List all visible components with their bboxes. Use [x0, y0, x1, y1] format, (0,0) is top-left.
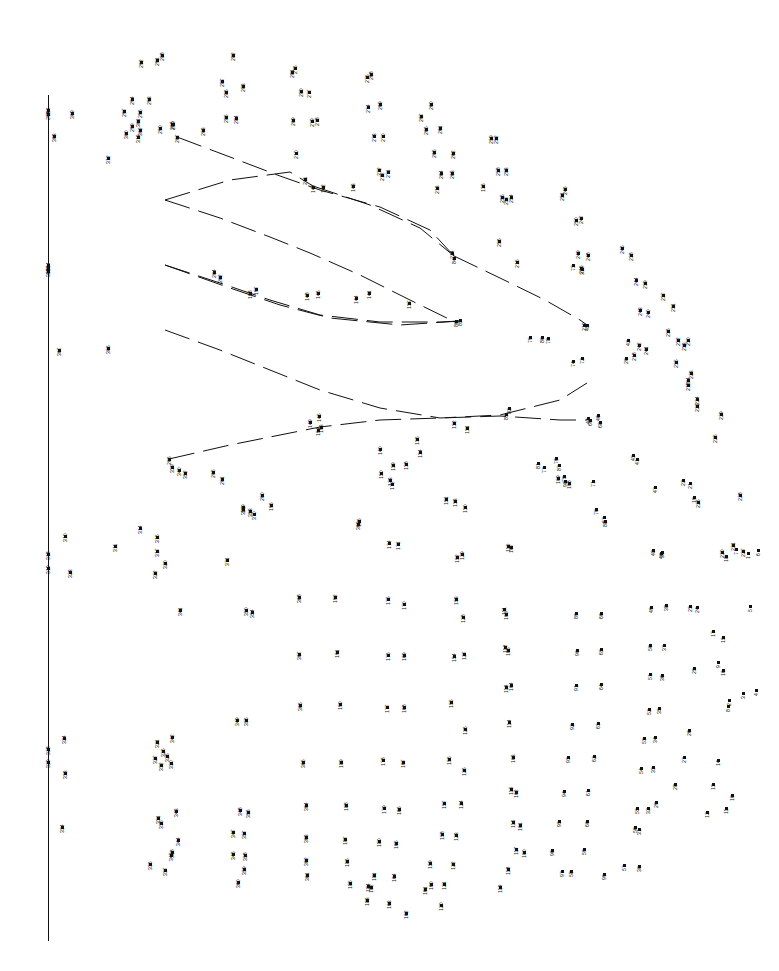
- dot-label-87: 87: [557, 465, 562, 471]
- dot-label-27: 27: [682, 757, 687, 763]
- dot-label-7: 7: [734, 552, 739, 555]
- dot-label-145: 145: [317, 413, 322, 422]
- dot-label-319: 319: [46, 565, 51, 574]
- dot-label-128: 128: [461, 614, 466, 623]
- dot-label-5: 5: [748, 609, 753, 612]
- dot-label-124: 124: [459, 800, 464, 809]
- dot-label-129: 129: [460, 551, 465, 560]
- dot-label-120: 120: [439, 902, 444, 911]
- dot-label-51: 51: [648, 674, 653, 680]
- dot-label-225: 225: [713, 434, 718, 443]
- dot-label-43: 43: [631, 455, 636, 461]
- dot-label-366: 366: [298, 702, 303, 711]
- dot-label-181: 181: [372, 872, 377, 881]
- dot-label-135: 135: [415, 436, 420, 445]
- dot-label-22: 22: [681, 480, 686, 486]
- dot-label-298: 298: [46, 111, 51, 120]
- dot-label-88: 88: [603, 521, 608, 527]
- curve-arc-1: [177, 137, 454, 256]
- dot-label-10: 10: [730, 795, 735, 801]
- dot-label-257: 257: [504, 196, 509, 205]
- dot-label-300: 300: [124, 130, 129, 139]
- dot-label-48: 48: [651, 550, 656, 556]
- dot-label-321: 321: [155, 739, 160, 748]
- dot-label-256: 256: [497, 238, 502, 247]
- dot-label-235: 235: [674, 359, 679, 368]
- dot-label-258: 258: [496, 167, 501, 176]
- dot-label-13: 13: [711, 784, 716, 790]
- dot-label-263: 263: [450, 170, 455, 179]
- dot-label-316: 316: [580, 266, 585, 275]
- dot-label-35: 35: [657, 708, 662, 714]
- dot-label-312: 312: [106, 155, 111, 164]
- dot-label-96: 96: [550, 850, 555, 856]
- dot-label-192: 192: [333, 594, 338, 603]
- dot-label-101: 101: [518, 822, 523, 831]
- dot-label-15: 15: [721, 637, 726, 643]
- dot-label-79: 79: [528, 337, 533, 343]
- dot-label-217: 217: [582, 322, 587, 331]
- dot-label-11: 11: [724, 809, 729, 814]
- dot-label-260: 260: [429, 101, 434, 110]
- dot-label-313: 313: [136, 134, 141, 143]
- dot-label-90: 90: [575, 650, 580, 656]
- dot-label-185: 185: [348, 880, 353, 889]
- dot-label-224: 224: [695, 396, 700, 405]
- dot-label-244: 244: [634, 277, 639, 286]
- dot-label-142: 142: [321, 184, 326, 193]
- dot-label-92: 92: [570, 724, 575, 730]
- dot-label-84: 84: [452, 258, 457, 264]
- dot-label-250: 250: [574, 217, 579, 226]
- dot-label-294: 294: [130, 96, 135, 105]
- dot-label-29: 29: [654, 802, 659, 808]
- dot-label-133: 133: [453, 498, 458, 507]
- dot-label-23: 23: [688, 606, 693, 612]
- dot-label-61: 61: [586, 790, 591, 796]
- dot-label-245: 245: [620, 245, 625, 254]
- dot-label-186: 186: [345, 858, 350, 867]
- dot-label-59: 59: [582, 849, 587, 855]
- dot-label-184: 184: [366, 883, 371, 892]
- dot-label-280: 280: [299, 88, 304, 97]
- dot-label-365: 365: [301, 759, 306, 768]
- dot-label-273: 273: [372, 133, 377, 142]
- dot-label-112: 112: [503, 645, 508, 653]
- dot-label-109: 109: [556, 475, 561, 484]
- dot-label-156: 156: [447, 756, 452, 765]
- dot-label-16: 16: [721, 670, 726, 676]
- dot-label-308: 308: [46, 268, 51, 277]
- dot-label-17: 17: [711, 631, 716, 637]
- dot-label-202: 202: [218, 274, 223, 283]
- dot-label-47: 47: [653, 487, 658, 493]
- dot-label-287: 287: [220, 78, 225, 87]
- dot-label-317: 317: [155, 548, 160, 557]
- dot-label-56: 56: [633, 827, 638, 833]
- dot-label-264: 264: [439, 170, 444, 179]
- dot-label-261: 261: [438, 125, 443, 134]
- dot-label-80: 80: [540, 337, 545, 343]
- dot-label-269: 269: [378, 101, 383, 110]
- dot-label-150: 150: [379, 470, 384, 479]
- dot-label-147: 147: [311, 184, 316, 193]
- dot-label-339: 339: [170, 464, 175, 473]
- dot-label-40: 40: [659, 553, 664, 559]
- dot-label-237: 237: [661, 292, 666, 301]
- dot-label-123: 123: [454, 832, 459, 841]
- curve-arc-3: [165, 172, 313, 200]
- curve-arc-8: [165, 330, 587, 418]
- dot-label-266: 266: [424, 126, 429, 135]
- dot-label-49: 49: [649, 607, 654, 613]
- dot-label-153: 153: [454, 596, 459, 605]
- dot-label-221: 221: [731, 542, 736, 551]
- dot-label-285: 285: [224, 114, 229, 123]
- dot-label-178: 178: [381, 757, 386, 766]
- dot-label-284: 284: [234, 115, 239, 124]
- dot-label-136: 136: [481, 183, 486, 192]
- dot-label-243: 243: [638, 307, 643, 316]
- dot-label-171: 171: [396, 541, 401, 550]
- dot-label-275: 275: [365, 74, 370, 83]
- dot-label-70: 70: [594, 509, 599, 515]
- dot-label-352: 352: [183, 470, 188, 479]
- dot-label-204: 204: [212, 269, 217, 278]
- dot-label-233: 233: [682, 342, 687, 351]
